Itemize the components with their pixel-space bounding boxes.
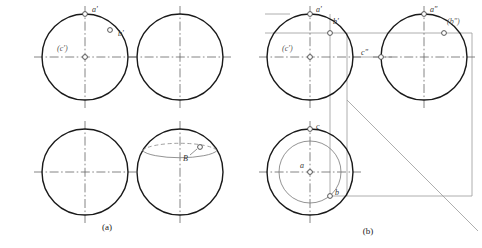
point-marker-b [328,194,333,199]
label-b-double-prime: (b") [447,17,460,26]
label-b: b [335,188,339,197]
label-c-double-prime: c" [361,48,369,57]
label-c-prime: (c') [57,44,68,53]
point-marker-a-prime [83,12,88,17]
point-marker-c-double-prime [379,55,384,60]
caption-panel-b: (b) [363,226,374,236]
label-b-prime: b' [118,29,124,38]
label-a: a [300,161,304,170]
point-marker-a-double-prime [422,12,427,17]
figure-background [0,0,482,248]
point-marker-B [198,145,203,150]
point-marker-b-prime [108,28,113,33]
figure-canvas: .circ-outline { fill: none; stroke: #1a1… [0,0,482,248]
point-marker-c-prime [308,55,313,60]
label-b-prime: b' [333,17,339,26]
point-marker-a [308,170,313,175]
label-c-prime: (c') [282,44,293,53]
label-a-prime: a' [92,5,98,14]
point-marker-c [308,127,313,132]
point-marker-c-prime [83,55,88,60]
label-a-prime: a' [316,5,322,14]
engineering-drawing-figure: .circ-outline { fill: none; stroke: #1a1… [0,0,482,248]
point-marker-a-prime [308,12,313,17]
label-a-double-prime: a" [430,5,438,14]
label-c: c [316,122,320,131]
caption-panel-a: (a) [102,222,112,232]
point-marker-b-prime [328,31,333,36]
point-marker-b-double-prime [442,31,447,36]
label-B: B [183,154,188,163]
